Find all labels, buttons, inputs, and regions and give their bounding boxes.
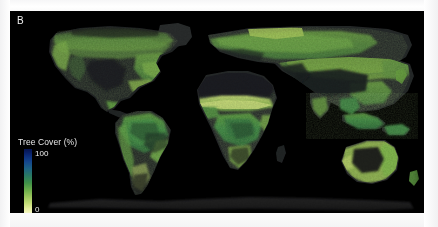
paper-background-left [0, 0, 10, 227]
legend-colorbar [24, 149, 32, 213]
map-panel: B [10, 11, 424, 213]
paper-background-bottom [0, 213, 438, 227]
panel-label: B [17, 15, 24, 26]
paper-background-right [424, 0, 438, 227]
map-legend: Tree Cover (%) 100 0 [16, 137, 108, 213]
paper-background-top [0, 0, 438, 11]
legend-body: 100 0 [16, 149, 108, 213]
legend-min-label: 0 [35, 205, 39, 213]
figure-panel: B [0, 0, 438, 227]
legend-max-label: 100 [35, 149, 48, 158]
legend-title: Tree Cover (%) [18, 137, 108, 147]
